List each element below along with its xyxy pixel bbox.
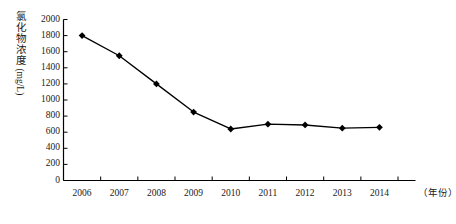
series-line xyxy=(82,36,379,129)
data-point-marker xyxy=(265,121,272,128)
axes xyxy=(64,20,416,181)
data-point-marker xyxy=(339,125,346,132)
data-point-marker xyxy=(376,124,383,131)
data-point-marker xyxy=(79,32,86,39)
data-point-marker xyxy=(227,126,234,133)
series-markers xyxy=(79,32,383,132)
data-point-marker xyxy=(302,122,309,129)
